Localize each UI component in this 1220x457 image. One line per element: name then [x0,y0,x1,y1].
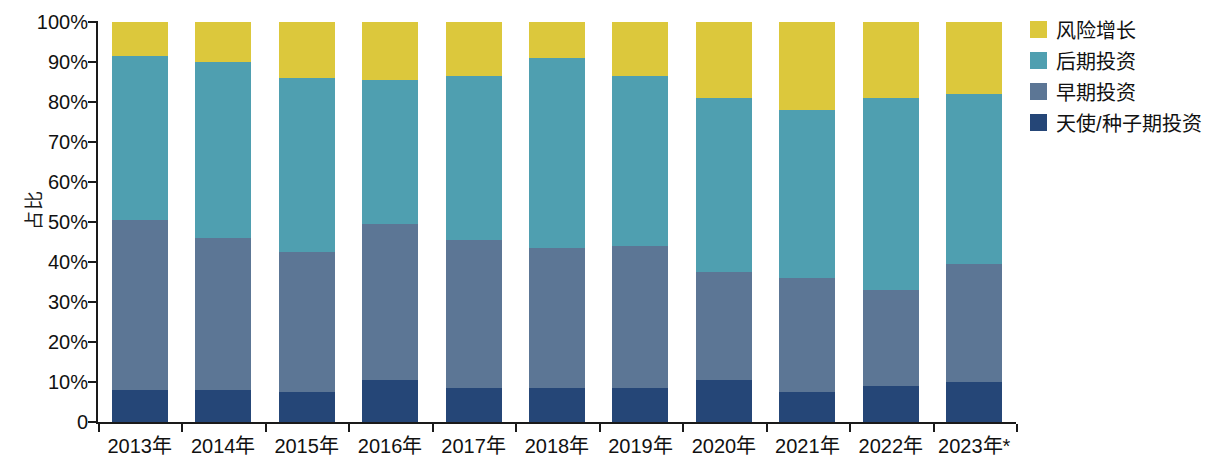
bar-segment[interactable] [279,22,335,78]
bar-segment[interactable] [863,386,919,422]
x-axis-tick-label: 2013年 [98,430,181,457]
y-axis-tick-mark [88,141,98,143]
bar-group[interactable] [112,22,168,422]
bar-segment[interactable] [612,22,668,76]
legend-item[interactable]: 风险增长 [1030,14,1220,45]
bar-segment[interactable] [529,388,585,422]
bar-group[interactable] [195,22,251,422]
bar-group[interactable] [696,22,752,422]
bar-group[interactable] [612,22,668,422]
bar-stack [195,22,251,422]
x-axis-tick-label: 2016年 [348,430,431,457]
bar-segment[interactable] [863,98,919,290]
bar-group[interactable] [362,22,418,422]
legend-item-label: 早期投资 [1056,77,1136,106]
bar-segment[interactable] [446,388,502,422]
bar-stack [446,22,502,422]
bar-group[interactable] [529,22,585,422]
bar-group[interactable] [279,22,335,422]
x-axis-tick-label: 2017年 [432,430,515,457]
y-axis-tick-mark [88,21,98,23]
legend-swatch-icon [1030,83,1047,100]
bar-segment[interactable] [112,56,168,220]
bar-segment[interactable] [946,382,1002,422]
bar-group[interactable] [446,22,502,422]
bar-group[interactable] [863,22,919,422]
bar-segment[interactable] [112,390,168,422]
x-axis-tick-label: 2023年* [933,430,1016,457]
bar-segment[interactable] [112,22,168,56]
bar-segment[interactable] [279,252,335,392]
bar-segment[interactable] [362,380,418,422]
bar-segment[interactable] [279,78,335,252]
legend-item-label: 风险增长 [1056,15,1136,44]
legend-swatch-icon [1030,52,1047,69]
bar-segment[interactable] [946,94,1002,264]
bar-segment[interactable] [946,22,1002,94]
y-axis-tick-label: 60% [20,172,88,192]
bar-group[interactable] [946,22,1002,422]
y-axis-tick-label: 90% [20,52,88,72]
bar-segment[interactable] [779,22,835,110]
bar-segment[interactable] [612,246,668,388]
bar-segment[interactable] [112,220,168,390]
bar-segment[interactable] [779,110,835,278]
bar-segment[interactable] [529,248,585,388]
bar-segment[interactable] [195,390,251,422]
y-axis-tick-label: 20% [20,332,88,352]
y-axis-tick-mark [88,381,98,383]
x-axis-tick-label: 2018年 [515,430,598,457]
bar-stack [696,22,752,422]
y-axis-tick-label: 70% [20,132,88,152]
x-axis-tick-label: 2022年 [849,430,932,457]
y-axis-tick-labels: 010%20%30%40%50%60%70%80%90%100% [20,0,88,457]
bar-segment[interactable] [362,80,418,224]
legend-item[interactable]: 早期投资 [1030,76,1220,107]
legend-item-label: 天使/种子期投资 [1056,108,1202,137]
y-axis-tick-mark [88,261,98,263]
bar-segment[interactable] [446,240,502,388]
bar-segment[interactable] [696,22,752,98]
bar-segment[interactable] [195,22,251,62]
x-axis-tick-label: 2014年 [181,430,264,457]
y-axis-tick-mark [88,61,98,63]
y-axis-tick-label: 40% [20,252,88,272]
x-axis-line [96,422,1016,424]
bar-segment[interactable] [863,290,919,386]
bar-group[interactable] [779,22,835,422]
bar-segment[interactable] [779,278,835,392]
bar-segment[interactable] [696,272,752,380]
bar-segment[interactable] [279,392,335,422]
bar-segment[interactable] [446,76,502,240]
x-axis-tick-label: 2020年 [682,430,765,457]
bar-segment[interactable] [946,264,1002,382]
bar-segment[interactable] [446,22,502,76]
bar-segment[interactable] [362,22,418,80]
x-axis-tick-label: 2015年 [265,430,348,457]
bar-stack [112,22,168,422]
y-axis-tick-mark [88,341,98,343]
bar-segment[interactable] [779,392,835,422]
y-axis-tick-label: 50% [20,212,88,232]
bar-segment[interactable] [863,22,919,98]
bar-segment[interactable] [529,22,585,58]
bar-stack [362,22,418,422]
y-axis-tick-label: 0 [20,412,88,432]
bar-segment[interactable] [195,62,251,238]
bar-segment[interactable] [612,76,668,246]
bar-stack [779,22,835,422]
bar-segment[interactable] [195,238,251,390]
bar-segment[interactable] [529,58,585,248]
legend-swatch-icon [1030,21,1047,38]
bar-stack [946,22,1002,422]
x-axis-tick-mark [1016,424,1018,432]
y-axis-tick-mark [88,221,98,223]
legend-item[interactable]: 后期投资 [1030,45,1220,76]
bar-stack [529,22,585,422]
bar-segment[interactable] [696,98,752,272]
y-axis-tick-label: 80% [20,92,88,112]
bar-segment[interactable] [362,224,418,380]
bar-segment[interactable] [612,388,668,422]
bar-segment[interactable] [696,380,752,422]
legend-item[interactable]: 天使/种子期投资 [1030,107,1220,138]
